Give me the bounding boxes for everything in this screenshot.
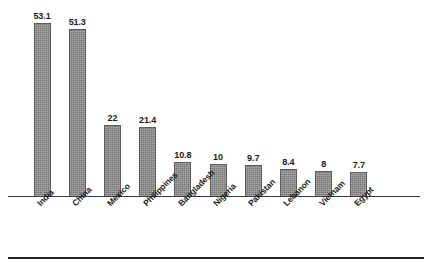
bar-value-label: 53.1: [33, 11, 50, 21]
bar-rect: [34, 23, 51, 197]
bar-mexico: 22: [104, 109, 121, 197]
bar-india: 53.1: [34, 7, 51, 197]
category-axis-labels: IndiaChinaMexicoPhilippinesBangladeshNig…: [0, 197, 432, 252]
bar-value-label: 7.7: [353, 160, 365, 170]
bar-chart-figure: 53.151.32221.410.8109.78.487.7 IndiaChin…: [0, 0, 432, 270]
bar-value-label: 51.3: [69, 17, 86, 27]
bottom-horizontal-rule: [8, 257, 424, 259]
bar-rect: [139, 127, 156, 197]
bar-value-label: 8.4: [282, 157, 294, 167]
bar-value-label: 21.4: [139, 115, 156, 125]
bar-philippines: 21.4: [139, 111, 156, 197]
bar-value-label: 9.7: [247, 153, 259, 163]
bar-value-label: 22: [107, 113, 117, 123]
bar-value-label: 8: [321, 159, 326, 169]
bar-rect: [69, 29, 86, 197]
bar-value-label: 10.8: [174, 150, 191, 160]
plot-area: 53.151.32221.410.8109.78.487.7: [0, 0, 432, 197]
bar-value-label: 10: [213, 152, 223, 162]
bar-china: 51.3: [69, 13, 86, 197]
